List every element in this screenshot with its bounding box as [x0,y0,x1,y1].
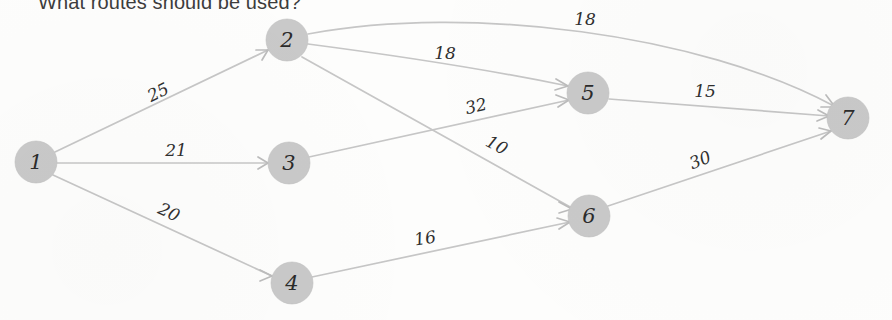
node-2[interactable]: 2 [266,19,308,61]
edge-label-5-7: 15 [694,81,716,101]
edge-label-2-5: 18 [434,43,456,63]
edge-label-6-7: 30 [686,147,714,174]
edge-label-2-7: 18 [574,9,596,29]
node-2-label: 2 [279,28,293,52]
node-5-label: 5 [581,81,594,105]
node-4[interactable]: 4 [271,262,313,304]
node-7-label: 7 [841,106,855,130]
edge-6-7-line [608,131,831,206]
node-7[interactable]: 7 [827,97,869,139]
node-6[interactable]: 6 [568,195,610,237]
node-5[interactable]: 5 [567,72,609,114]
network-diagram-page: What routes should be used? [0,0,892,320]
edge-label-4-6: 16 [413,226,438,249]
edge-6-7 [608,128,831,206]
edge-2-6 [302,57,572,213]
edge-5-7 [609,99,829,121]
edge-label-1-2: 25 [143,78,172,106]
edge-label-3-5: 32 [463,94,489,118]
node-3-label: 3 [282,151,295,175]
edge-label-1-4: 20 [154,198,183,226]
edge-4-6 [312,218,570,277]
node-4-label: 4 [284,271,298,295]
edge-1-4-line [53,175,272,276]
edge-3-5-line [309,100,569,157]
edge-4-6-line [312,222,570,277]
node-1-label: 1 [29,150,42,174]
node-6-label: 6 [582,204,595,228]
edge-label-1-3: 21 [164,140,187,160]
edge-1-4 [53,175,272,281]
edge-3-5 [309,95,569,157]
node-1[interactable]: 1 [15,141,57,183]
edge-1-3 [57,157,268,169]
edge-1-4-arrowhead [260,270,272,281]
node-3[interactable]: 3 [268,142,310,184]
network-graph: 1 2 3 4 5 6 [0,0,892,320]
edge-label-2-6: 10 [483,131,512,159]
edge-label-layer: 25 21 20 18 18 10 32 16 15 30 [143,9,716,250]
edge-5-7-line [609,99,829,116]
